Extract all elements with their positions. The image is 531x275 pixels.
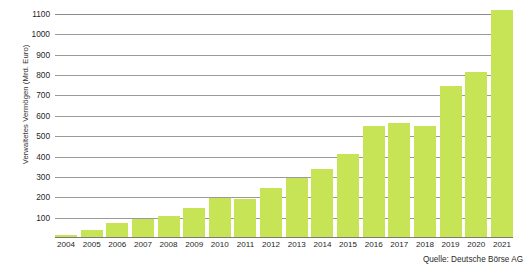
x-axis-tick-label: 2008	[158, 240, 180, 249]
bar-2016	[363, 126, 385, 238]
y-axis-tick-label: 900	[10, 50, 50, 60]
x-axis-tick-label: 2016	[363, 240, 385, 249]
bar-column	[209, 14, 231, 238]
x-axis-tick-label: 2014	[311, 240, 333, 249]
bar-column	[286, 14, 308, 238]
y-axis-tick-label: 400	[10, 152, 50, 162]
bar-column	[81, 14, 103, 238]
plot-area: 11001000900800700600500400300200100	[55, 14, 513, 238]
bar-2010	[209, 198, 231, 238]
x-axis-tick-label: 2011	[234, 240, 256, 249]
x-axis-tick-label: 2010	[209, 240, 231, 249]
x-axis-tick-label: 2019	[440, 240, 462, 249]
y-axis-tick-label: 700	[10, 90, 50, 100]
bar-2013	[286, 178, 308, 238]
x-axis-tick-label: 2021	[491, 240, 513, 249]
axis-baseline	[55, 237, 513, 238]
bar-column	[491, 14, 513, 238]
bar-column	[158, 14, 180, 238]
x-axis-tick-label: 2006	[106, 240, 128, 249]
x-axis-tick-label: 2013	[286, 240, 308, 249]
x-axis-labels: 2004200520062007200820092010201120122013…	[55, 240, 513, 249]
bar-column	[55, 14, 77, 238]
bar-2019	[440, 86, 462, 238]
bar-column	[337, 14, 359, 238]
bar-2012	[260, 188, 282, 238]
y-axis-tick-label: 300	[10, 172, 50, 182]
x-axis-tick-label: 2015	[337, 240, 359, 249]
bar-2007	[132, 219, 154, 238]
bar-2008	[158, 216, 180, 238]
bar-2006	[106, 223, 128, 238]
y-axis-tick-label: 100	[10, 213, 50, 223]
y-axis-tick-label: 200	[10, 192, 50, 202]
bar-column	[132, 14, 154, 238]
bar-column	[311, 14, 333, 238]
bar-column	[465, 14, 487, 238]
y-axis-tick-label: 1100	[10, 9, 50, 19]
bar-2009	[183, 208, 205, 238]
bar-2018	[414, 126, 436, 238]
bar-2015	[337, 154, 359, 239]
x-axis-tick-label: 2017	[388, 240, 410, 249]
bar-column	[440, 14, 462, 238]
y-axis-tick-label: 500	[10, 131, 50, 141]
y-axis-tick-label: 1000	[10, 29, 50, 39]
bar-2011	[234, 199, 256, 238]
x-axis-tick-label: 2004	[55, 240, 77, 249]
bar-column	[414, 14, 436, 238]
bar-column	[388, 14, 410, 238]
x-axis-tick-label: 2009	[183, 240, 205, 249]
x-axis-tick-label: 2020	[465, 240, 487, 249]
x-axis-tick-label: 2005	[81, 240, 103, 249]
x-axis-tick-label: 2012	[260, 240, 282, 249]
x-axis-tick-label: 2018	[414, 240, 436, 249]
bar-column	[260, 14, 282, 238]
bar-2020	[465, 72, 487, 238]
x-axis-tick-label: 2007	[132, 240, 154, 249]
bar-chart: Verwaltetes Vermögen (Mrd. Euro) 1100100…	[0, 0, 531, 275]
source-note: Quelle: Deutsche Börse AG	[423, 255, 523, 264]
bar-column	[183, 14, 205, 238]
bar-column	[106, 14, 128, 238]
y-axis-tick-label: 600	[10, 111, 50, 121]
bar-2014	[311, 169, 333, 238]
bar-2017	[388, 123, 410, 238]
bar-column	[234, 14, 256, 238]
bar-2021	[491, 10, 513, 238]
bar-series	[55, 14, 513, 238]
bar-column	[363, 14, 385, 238]
y-axis-tick-label: 800	[10, 70, 50, 80]
